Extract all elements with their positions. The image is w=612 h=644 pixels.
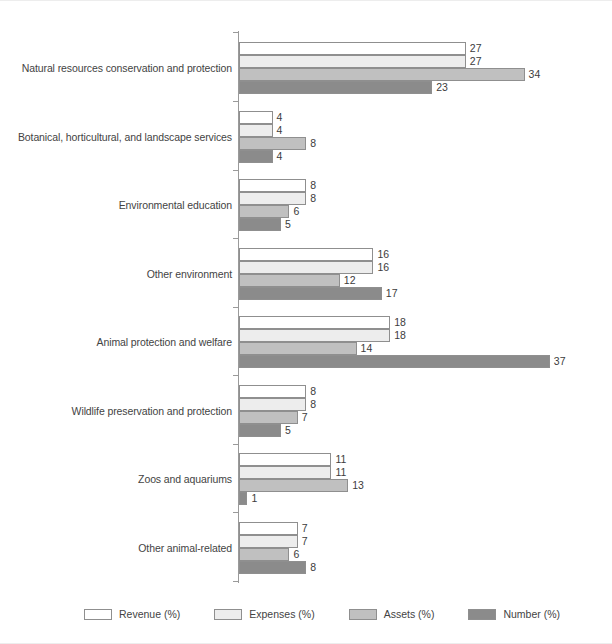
bar-value-label: 8 (306, 137, 316, 150)
bar-row: 27 (239, 42, 506, 55)
bar-1[interactable] (239, 192, 306, 205)
category-label: Natural resources conservation and prote… (0, 62, 232, 74)
bar-2[interactable] (239, 479, 348, 492)
bar-2[interactable] (239, 137, 306, 150)
bar-2[interactable] (239, 342, 357, 355)
bar-value-label: 6 (289, 548, 299, 561)
bar-1[interactable] (239, 261, 373, 274)
legend-item[interactable]: Number (%) (468, 608, 560, 620)
legend-item[interactable]: Assets (%) (349, 608, 435, 620)
bar-3[interactable] (239, 355, 550, 368)
bar-3[interactable] (239, 150, 273, 163)
y-axis-tick (233, 238, 238, 239)
bar-3[interactable] (239, 492, 247, 505)
bar-2[interactable] (239, 548, 289, 561)
bar-0[interactable] (239, 179, 306, 192)
bar-row: 27 (239, 55, 506, 68)
bar-value-label: 37 (550, 355, 566, 368)
bar-row: 11 (239, 466, 371, 479)
bar-value-label: 5 (281, 218, 291, 231)
bar-row: 8 (239, 192, 346, 205)
bar-2[interactable] (239, 411, 298, 424)
bar-3[interactable] (239, 218, 281, 231)
y-axis-tick (233, 170, 238, 171)
bar-3[interactable] (239, 424, 281, 437)
bar-row: 8 (239, 561, 346, 574)
legend-swatch-icon (214, 609, 242, 620)
bar-1[interactable] (239, 124, 273, 137)
bar-value-label: 4 (273, 111, 283, 124)
bar-value-label: 27 (466, 42, 482, 55)
legend-label: Number (%) (503, 608, 560, 620)
legend-item[interactable]: Revenue (%) (84, 608, 180, 620)
bar-value-label: 7 (298, 411, 308, 424)
bar-row: 16 (239, 248, 413, 261)
bar-row: 16 (239, 261, 413, 274)
bar-row: 23 (239, 81, 472, 94)
bar-row: 8 (239, 385, 346, 398)
bar-value-label: 8 (306, 561, 316, 574)
bar-value-label: 8 (306, 179, 316, 192)
bar-value-label: 4 (273, 124, 283, 137)
y-axis-tick (233, 307, 238, 308)
bar-value-label: 4 (273, 150, 283, 163)
bar-row: 18 (239, 316, 430, 329)
category-label: Other animal-related (0, 542, 232, 554)
bar-row: 7 (239, 522, 338, 535)
y-axis-tick (233, 512, 238, 513)
bar-row: 5 (239, 424, 321, 437)
bar-3[interactable] (239, 287, 382, 300)
bar-value-label: 16 (373, 248, 389, 261)
bar-value-label: 13 (348, 479, 364, 492)
bar-0[interactable] (239, 316, 390, 329)
bar-0[interactable] (239, 111, 273, 124)
bar-2[interactable] (239, 274, 340, 287)
bar-value-label: 14 (357, 342, 373, 355)
bar-row: 6 (239, 548, 329, 561)
bar-value-label: 18 (390, 316, 406, 329)
bar-value-label: 27 (466, 55, 482, 68)
bar-1[interactable] (239, 329, 390, 342)
y-axis-tick (233, 581, 238, 582)
bar-value-label: 6 (289, 205, 299, 218)
bar-row: 8 (239, 179, 346, 192)
legend-item[interactable]: Expenses (%) (214, 608, 314, 620)
bar-0[interactable] (239, 522, 298, 535)
bar-row: 12 (239, 274, 380, 287)
bar-0[interactable] (239, 385, 306, 398)
bar-value-label: 11 (331, 466, 346, 479)
bar-value-label: 16 (373, 261, 389, 274)
bar-row: 7 (239, 535, 338, 548)
bar-row: 8 (239, 398, 346, 411)
legend-swatch-icon (84, 609, 112, 620)
legend-label: Revenue (%) (119, 608, 180, 620)
bar-0[interactable] (239, 248, 373, 261)
category-label: Zoos and aquariums (0, 473, 232, 485)
bar-row: 6 (239, 205, 329, 218)
y-axis-tick (233, 444, 238, 445)
bar-0[interactable] (239, 453, 331, 466)
legend-label: Assets (%) (384, 608, 435, 620)
bar-2[interactable] (239, 205, 289, 218)
y-axis-tick (233, 32, 238, 33)
bar-3[interactable] (239, 561, 306, 574)
bar-value-label: 8 (306, 385, 316, 398)
plot-area: Natural resources conservation and prote… (0, 1, 612, 593)
bar-1[interactable] (239, 398, 306, 411)
bar-3[interactable] (239, 81, 432, 94)
bar-2[interactable] (239, 68, 525, 81)
category-label: Wildlife preservation and protection (0, 405, 232, 417)
bar-0[interactable] (239, 42, 466, 55)
bar-1[interactable] (239, 535, 298, 548)
bar-1[interactable] (239, 466, 331, 479)
y-axis-tick (233, 101, 238, 102)
category-label: Animal protection and welfare (0, 336, 232, 348)
bar-value-label: 34 (525, 68, 541, 81)
bar-row: 1 (239, 492, 287, 505)
bar-row: 4 (239, 111, 313, 124)
legend-swatch-icon (349, 609, 377, 620)
bar-1[interactable] (239, 55, 466, 68)
y-axis-tick (233, 375, 238, 376)
bar-row: 37 (239, 355, 590, 368)
category-label: Botanical, horticultural, and landscape … (0, 131, 232, 143)
